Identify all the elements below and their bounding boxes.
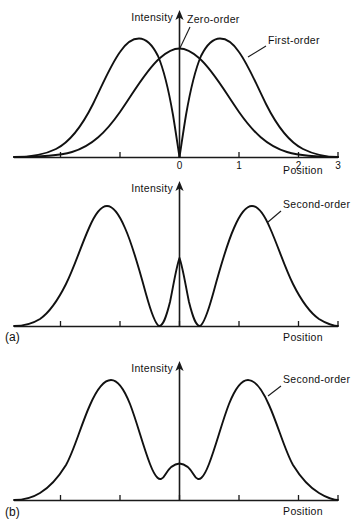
x-tick-label-3: 3 (335, 160, 341, 171)
y-axis-label-bottom: Intensity (131, 362, 173, 374)
x-axis-label-middle: Position (283, 331, 323, 343)
leader-zero-order (180, 27, 190, 48)
diffraction-orders-figure: Intensity Zero-order First-order 0 1 2 3… (0, 0, 352, 525)
x-axis-label-top: Position (283, 164, 323, 176)
panel-label-a: (a) (5, 330, 20, 344)
y-axis-label-top: Intensity (131, 11, 173, 23)
curve-second-order-b (14, 380, 338, 500)
leader-first-order (248, 46, 266, 57)
x-axis-label-bottom: Position (283, 505, 323, 517)
curve-first-order-right (180, 39, 339, 158)
curve-zero-order (14, 49, 338, 158)
y-axis-label-middle: Intensity (131, 182, 173, 194)
panel-bottom: Intensity Second-order (b) Position (5, 361, 350, 519)
annotation-zero-order: Zero-order (187, 13, 240, 25)
x-tick-label-0: 0 (177, 160, 183, 171)
panel-middle: Intensity Second-order (a) Position (5, 181, 350, 344)
leader-second-order-b (268, 386, 281, 396)
curve-second-order-a (14, 206, 338, 326)
annotation-second-order-a: Second-order (283, 198, 350, 210)
x-tick-label-1: 1 (236, 160, 242, 171)
x-ticks-bottom (61, 495, 339, 501)
annotation-second-order-b: Second-order (283, 373, 350, 385)
annotation-first-order: First-order (268, 34, 320, 46)
panel-label-b: (b) (5, 505, 20, 519)
leader-second-order-a (268, 211, 281, 222)
panel-top: Intensity Zero-order First-order 0 1 2 3… (14, 10, 341, 176)
